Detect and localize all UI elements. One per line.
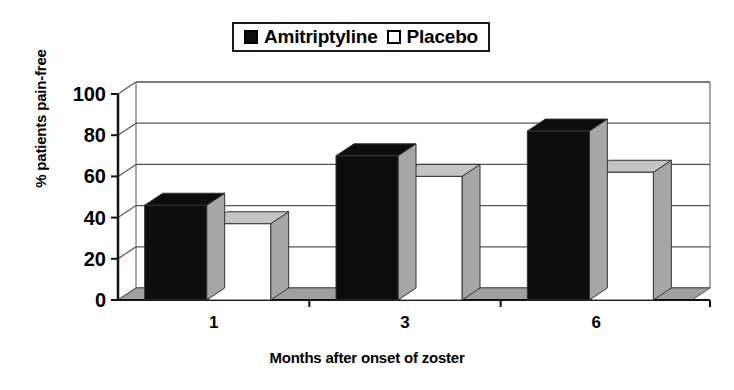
plot-area: 020406080100136 — [0, 0, 734, 330]
y-tick-label: 100 — [73, 83, 106, 105]
y-tick-label: 60 — [84, 165, 106, 187]
x-tick-label: 6 — [592, 313, 601, 330]
bar — [527, 131, 589, 300]
y-tick-label: 40 — [84, 207, 106, 229]
x-tick-label: 3 — [400, 313, 409, 330]
y-tick-label: 20 — [84, 248, 106, 270]
y-tick-label: 0 — [95, 289, 106, 311]
y-tick-label: 80 — [84, 124, 106, 146]
bar-chart: Amitriptyline Placebo % patients pain-fr… — [0, 0, 734, 390]
x-tick-label: 1 — [209, 313, 218, 330]
bar — [336, 156, 398, 300]
bar — [145, 205, 207, 300]
x-axis-title: Months after onset of zoster — [0, 349, 734, 366]
